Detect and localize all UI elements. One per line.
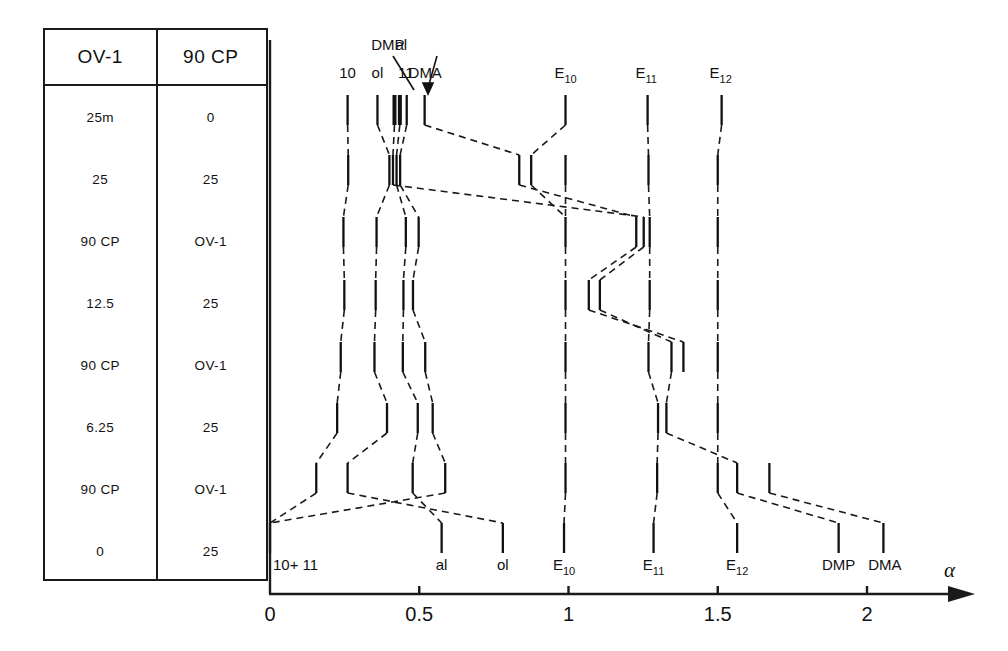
tie-line xyxy=(657,433,658,463)
tie-line xyxy=(348,125,349,155)
x-axis-ticks-group: 00.511.52 xyxy=(264,586,872,625)
tie-line xyxy=(425,372,432,403)
tie-line xyxy=(654,493,658,523)
top-peak-label: ol xyxy=(372,64,384,81)
chart-area: 10olDMPal11DMAE10E11E12 10+ 11alolE10E11… xyxy=(0,0,1008,651)
tie-line xyxy=(718,493,737,523)
tie-line xyxy=(343,185,348,217)
x-axis-arrowhead xyxy=(948,586,975,602)
axis-tick-label: 2 xyxy=(861,603,872,625)
tie-line xyxy=(666,372,671,403)
tie-line xyxy=(341,310,345,342)
tie-line xyxy=(413,247,419,280)
tie-line xyxy=(270,493,316,523)
axis-tick-label: 1.5 xyxy=(704,603,732,625)
tie-line xyxy=(425,125,520,155)
tie-line xyxy=(400,185,419,217)
tie-line xyxy=(718,125,722,155)
tie-line xyxy=(589,247,636,280)
tie-line xyxy=(403,310,404,342)
top-peak-label: DMA xyxy=(409,64,442,81)
tie-line xyxy=(531,125,565,155)
top-peak-label: E10 xyxy=(554,64,576,85)
top-labels-group: 10olDMPal11DMAE10E11E12 xyxy=(339,36,732,85)
tie-line xyxy=(270,493,445,523)
axis-tick-label: 0 xyxy=(264,603,275,625)
top-peak-label: E12 xyxy=(710,64,732,85)
tie-line xyxy=(413,310,425,342)
tie-line xyxy=(348,433,387,463)
tie-line xyxy=(377,125,389,155)
peak-marks-group xyxy=(270,95,883,553)
bottom-peak-label: E11 xyxy=(643,556,664,577)
tie-line xyxy=(377,185,390,217)
tie-line xyxy=(393,185,644,217)
axis-tick-label: 0.5 xyxy=(405,603,433,625)
top-peak-label: al xyxy=(395,36,407,53)
tie-line xyxy=(376,247,377,280)
tie-line xyxy=(564,493,565,523)
tie-line xyxy=(397,185,406,217)
tie-line xyxy=(348,493,503,523)
tie-line xyxy=(400,125,407,155)
tie-line xyxy=(397,125,400,155)
tie-line xyxy=(648,185,649,217)
tie-line xyxy=(648,310,649,342)
tie-line xyxy=(343,247,344,280)
tie-line xyxy=(600,247,644,280)
x-axis xyxy=(269,40,975,602)
tie-line xyxy=(393,125,394,155)
tie-line xyxy=(648,125,649,155)
tie-line xyxy=(519,185,636,217)
chart-svg: 10olDMPal11DMAE10E11E12 10+ 11alolE10E11… xyxy=(0,0,1008,651)
axis-tick-label: 1 xyxy=(563,603,574,625)
tie-line xyxy=(600,310,672,342)
bottom-peak-label: ol xyxy=(497,556,509,573)
tie-line xyxy=(316,433,337,463)
figure-root: OV-1 90 CP 25m0252590 CPOV-112.52590 CPO… xyxy=(0,0,1008,651)
tie-line xyxy=(433,433,446,463)
top-peak-label: E11 xyxy=(635,64,656,85)
tie-line xyxy=(403,372,418,403)
tie-lines-group xyxy=(270,125,883,523)
bottom-peak-label: DMA xyxy=(868,556,901,573)
tie-line xyxy=(666,433,737,463)
tie-line xyxy=(337,372,341,403)
top-peak-label: 10 xyxy=(339,64,356,81)
bottom-peak-label: E10 xyxy=(553,556,575,577)
bottom-peak-label: E12 xyxy=(726,556,748,577)
tie-line xyxy=(374,372,387,403)
tie-line xyxy=(413,433,418,463)
bottom-peak-label: al xyxy=(436,556,448,573)
bottom-labels-group: 10+ 11alolE10E11E12DMPDMA xyxy=(273,556,902,577)
al-leader-arrow xyxy=(423,83,433,94)
tie-line xyxy=(374,310,375,342)
tie-line xyxy=(737,493,838,523)
tie-line xyxy=(403,247,405,280)
tie-line xyxy=(648,372,658,403)
axis-label-alpha: α xyxy=(944,558,955,583)
bottom-peak-label: DMP xyxy=(822,556,855,573)
bottom-peak-label: 10+ 11 xyxy=(273,556,318,573)
